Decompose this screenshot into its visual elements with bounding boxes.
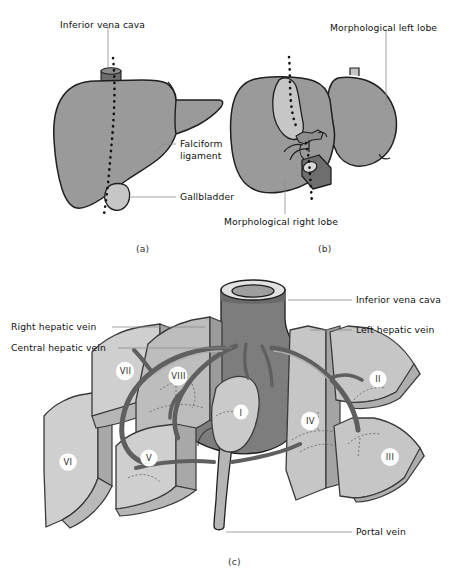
panel-b-illustration — [231, 29, 397, 214]
panel-a-label-falciform-ligament-line2: ligament — [180, 150, 221, 162]
panel-c-letter: (c) — [228, 556, 241, 567]
panel-c-illustration — [44, 280, 424, 532]
segment-label-I: I — [236, 408, 246, 418]
segment-plate-III — [334, 418, 424, 502]
panel-b-ivc-notch — [350, 68, 359, 76]
segment-label-III: III — [383, 452, 397, 462]
panel-a-letter: (a) — [136, 243, 149, 254]
segment-label-VII: VII — [118, 366, 133, 376]
panel-a-illustration — [54, 26, 223, 214]
panel-c-label-central-hepatic-vein: Central hepatic vein — [11, 342, 106, 354]
panel-c-label-left-hepatic-vein: Left hepatic vein — [356, 324, 434, 336]
panel-b-letter: (b) — [318, 243, 332, 254]
panel-a-label-inferior-vena-cava: Inferior vena cava — [60, 19, 145, 31]
segment-label-VIII: VIII — [169, 371, 188, 381]
liver-anatomy-figure — [0, 0, 465, 586]
panel-a-label-gallbladder: Gallbladder — [180, 191, 234, 203]
panel-b-label-morphological-right-lobe: Morphological right lobe — [224, 216, 338, 228]
panel-c-label-inferior-vena-cava: Inferior vena cava — [356, 294, 441, 306]
panel-b-label-morphological-left-lobe: Morphological left lobe — [330, 22, 437, 34]
panel-a-label-falciform-ligament-line1: Falciform — [180, 138, 223, 150]
segment-plate-V — [116, 424, 196, 516]
panel-c-label-right-hepatic-vein: Right hepatic vein — [11, 321, 96, 333]
segment-label-VI: VI — [61, 457, 75, 467]
segment-label-IV: IV — [303, 416, 318, 426]
segment-label-V: V — [144, 453, 154, 463]
segment-label-II: II — [372, 374, 384, 384]
panel-c-label-portal-vein: Portal vein — [356, 526, 406, 538]
